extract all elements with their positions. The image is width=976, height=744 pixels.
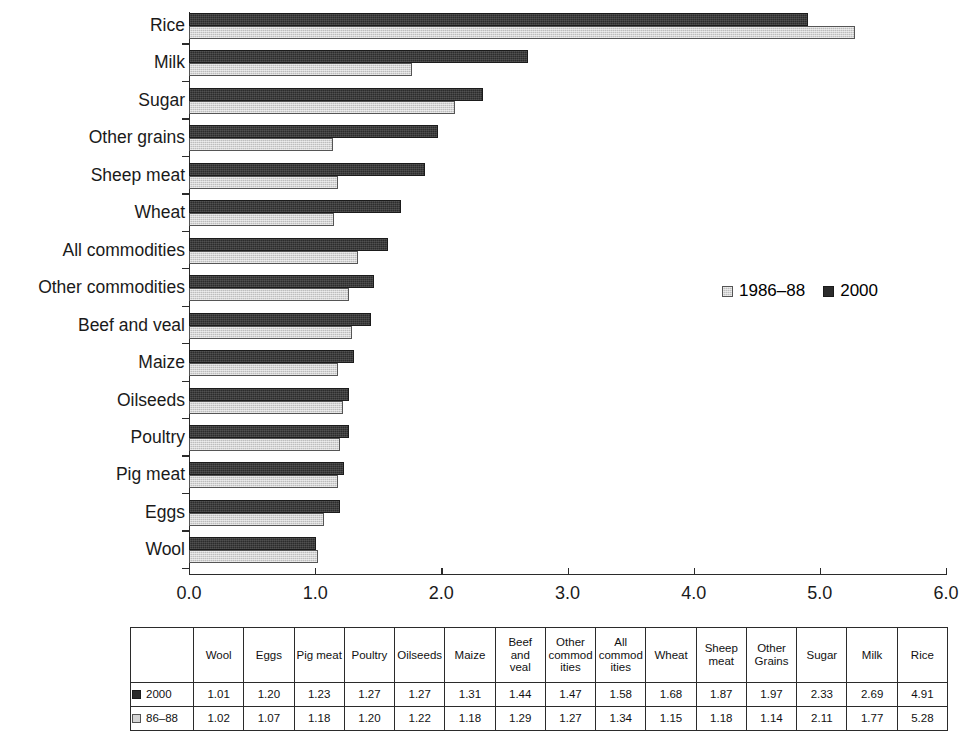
table-column-header-line: meat <box>698 655 745 668</box>
bar-1986-88 <box>189 213 334 226</box>
table-cell: 1.01 <box>194 683 244 707</box>
table-cell: 4.91 <box>897 683 947 707</box>
table-column-header-line: veal <box>497 661 544 674</box>
table-cell: 1.87 <box>696 683 746 707</box>
y-axis-tick <box>182 493 190 494</box>
legend-swatch-icon <box>823 286 834 297</box>
bar-1986-88 <box>189 550 318 563</box>
table-column-header: Sheepmeat <box>696 628 746 683</box>
legend-swatch-icon <box>722 286 733 297</box>
y-axis-label: Maize <box>138 354 185 372</box>
table-cell: 1.02 <box>194 707 244 731</box>
table-column-header-line: ities <box>547 661 594 674</box>
table-cell: 2.11 <box>797 707 847 731</box>
data-table-container: WoolEggsPig meatPoultryOilseedsMaizeBeef… <box>130 627 948 731</box>
x-axis-tick-label: 0.0 <box>176 583 201 604</box>
table-cell: 1.29 <box>495 707 545 731</box>
x-axis-tick-label: 6.0 <box>933 583 958 604</box>
table-column-header: Allcommodities <box>596 628 646 683</box>
bar-2000 <box>189 163 425 176</box>
table-cell: 1.47 <box>545 683 595 707</box>
y-axis-label: Other commodities <box>38 279 185 297</box>
chart-legend: 1986–882000 <box>722 281 878 301</box>
table-column-header-line: Beef <box>497 636 544 649</box>
table-row: 86–881.021.071.181.201.221.181.291.271.3… <box>131 707 948 731</box>
table-cell: 1.22 <box>395 707 445 731</box>
table-column-header-line: Grains <box>748 655 795 668</box>
table-column-header: Wool <box>194 628 244 683</box>
y-axis-tick <box>182 381 190 382</box>
y-axis-label: Wool <box>145 541 185 559</box>
bar-1986-88 <box>189 326 352 339</box>
table-column-header-line: commod <box>597 649 644 662</box>
table-row-header-inner: 2000 <box>132 688 192 701</box>
x-axis-tick <box>189 568 190 575</box>
bar-1986-88 <box>189 138 333 151</box>
table-cell: 1.44 <box>495 683 545 707</box>
table-column-header-line: Rice <box>899 649 946 662</box>
y-axis-label: Oilseeds <box>117 392 185 410</box>
x-axis-tick-label: 1.0 <box>303 583 328 604</box>
table-column-header-line: Sugar <box>798 649 845 662</box>
x-axis-tick <box>568 568 569 575</box>
legend-item: 1986–88 <box>722 281 805 301</box>
table-cell: 1.07 <box>244 707 294 731</box>
table-cell: 5.28 <box>897 707 947 731</box>
bar-1986-88 <box>189 438 340 451</box>
table-cell: 1.18 <box>696 707 746 731</box>
y-axis-tick <box>182 306 190 307</box>
bar-1986-88 <box>189 176 338 189</box>
table-column-header: Eggs <box>244 628 294 683</box>
y-axis-tick <box>182 231 190 232</box>
y-axis-label: Other grains <box>89 129 185 147</box>
x-axis-tick <box>694 568 695 575</box>
table-column-header-line: All <box>597 636 644 649</box>
bar-2000 <box>189 88 483 101</box>
table-cell: 1.27 <box>395 683 445 707</box>
table-column-header: Poultry <box>344 628 394 683</box>
y-axis-tick <box>182 343 190 344</box>
bar-2000 <box>189 462 344 475</box>
y-axis-tick <box>182 455 190 456</box>
table-cell: 1.14 <box>746 707 796 731</box>
table-column-header-line: Sheep <box>698 642 745 655</box>
table-cell: 1.15 <box>646 707 696 731</box>
y-axis-label: Sugar <box>138 92 185 110</box>
y-axis-tick <box>182 193 190 194</box>
table-row-header: 86–88 <box>131 707 194 731</box>
table-row-header-inner: 86–88 <box>132 712 192 725</box>
table-cell: 1.23 <box>294 683 344 707</box>
y-axis-label: Wheat <box>134 204 185 222</box>
x-axis-tick-label: 3.0 <box>555 583 580 604</box>
series-swatch-icon <box>132 690 141 699</box>
table-column-header: Wheat <box>646 628 696 683</box>
table-cell: 1.18 <box>294 707 344 731</box>
table-cell: 1.20 <box>244 683 294 707</box>
x-axis-tick <box>441 568 442 575</box>
bar-2000 <box>189 537 316 550</box>
table-column-header-line: Wheat <box>647 649 694 662</box>
bar-1986-88 <box>189 101 455 114</box>
y-axis-category-labels: RiceMilkSugarOther grainsSheep meatWheat… <box>0 0 185 570</box>
bar-1986-88 <box>189 475 338 488</box>
table-cell: 1.97 <box>746 683 796 707</box>
table-column-header-line: Other <box>748 642 795 655</box>
legend-label: 2000 <box>840 281 878 301</box>
table-header-row: WoolEggsPig meatPoultryOilseedsMaizeBeef… <box>131 628 948 683</box>
table-column-header: Pig meat <box>294 628 344 683</box>
bar-2000 <box>189 50 528 63</box>
table-row-header: 2000 <box>131 683 194 707</box>
bar-2000 <box>189 350 354 363</box>
x-axis-tick <box>820 568 821 575</box>
table-cell: 1.27 <box>545 707 595 731</box>
bar-2000 <box>189 238 388 251</box>
table-cell: 1.58 <box>596 683 646 707</box>
bar-2000 <box>189 500 340 513</box>
y-axis-label: Rice <box>150 17 185 35</box>
y-axis-tick <box>182 268 190 269</box>
bar-2000 <box>189 425 349 438</box>
bar-1986-88 <box>189 363 338 376</box>
table-column-header-line: Wool <box>195 649 242 662</box>
data-table-body: 20001.011.201.231.271.271.311.441.471.58… <box>131 683 948 731</box>
table-corner-cell <box>131 628 194 683</box>
